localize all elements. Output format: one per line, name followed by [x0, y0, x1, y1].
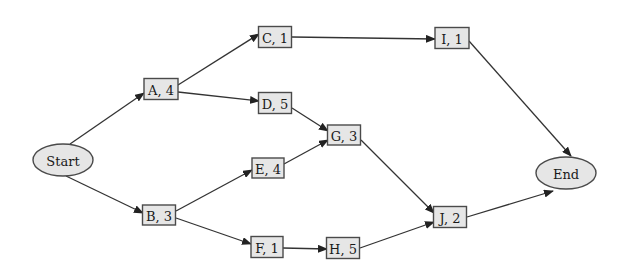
edge-a-to-c — [178, 34, 259, 85]
edge-f-to-h — [283, 248, 327, 249]
edge-i-to-end — [469, 41, 571, 156]
edge-g-to-j — [361, 140, 434, 213]
node-h: H, 5 — [327, 238, 360, 259]
node-start: Start — [33, 144, 93, 176]
nodes-layer: StartA, 4B, 3C, 1D, 5E, 4F, 1G, 3H, 5I, … — [33, 27, 596, 259]
node-c-label: C, 1 — [262, 31, 288, 46]
node-e-label: E, 4 — [255, 162, 281, 177]
node-d: D, 5 — [259, 93, 292, 114]
node-i: I, 1 — [435, 28, 469, 49]
edge-b-to-f — [176, 218, 251, 244]
edge-h-to-j — [360, 222, 434, 248]
node-a: A, 4 — [144, 79, 178, 100]
node-g-label: G, 3 — [331, 129, 357, 144]
node-end-label: End — [553, 167, 579, 182]
node-h-label: H, 5 — [329, 242, 357, 257]
edge-start-to-a — [70, 93, 144, 144]
node-e: E, 4 — [252, 158, 284, 178]
node-d-label: D, 5 — [262, 97, 289, 112]
node-f: F, 1 — [251, 237, 283, 258]
edge-b-to-e — [176, 170, 252, 211]
edge-d-to-g — [292, 108, 328, 131]
node-b: B, 3 — [143, 205, 176, 225]
edges-layer — [66, 34, 571, 249]
node-end: End — [536, 157, 596, 189]
node-f-label: F, 1 — [255, 241, 279, 256]
node-g: G, 3 — [328, 125, 361, 145]
node-i-label: I, 1 — [441, 32, 463, 47]
edge-e-to-g — [284, 140, 328, 164]
edge-start-to-b — [66, 176, 143, 213]
node-a-label: A, 4 — [147, 83, 174, 98]
edge-j-to-end — [467, 191, 553, 217]
node-b-label: B, 3 — [146, 209, 172, 224]
edge-c-to-i — [292, 37, 435, 39]
node-j-label: J, 2 — [438, 211, 461, 226]
node-c: C, 1 — [259, 27, 292, 48]
node-j: J, 2 — [434, 207, 467, 228]
edge-a-to-d — [178, 92, 259, 101]
network-diagram: StartA, 4B, 3C, 1D, 5E, 4F, 1G, 3H, 5I, … — [0, 0, 617, 278]
node-start-label: Start — [46, 154, 80, 169]
